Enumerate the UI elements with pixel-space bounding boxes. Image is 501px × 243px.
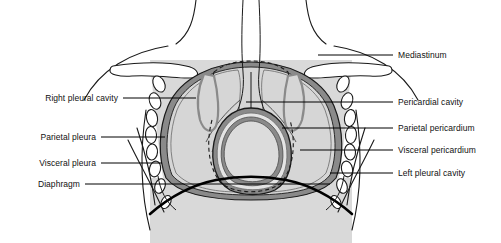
rib-right-4	[345, 126, 357, 144]
left-neck-outline	[176, 0, 196, 44]
anatomy-diagram-figure: Right pleural cavity Parietal pleura Vis…	[0, 0, 501, 243]
rib-left-4	[145, 126, 157, 144]
left-clavicle-bone	[110, 63, 198, 78]
left-pleural-reflection-fold	[198, 74, 218, 131]
label-left-pleural-cavity: Left pleural cavity	[398, 168, 465, 178]
rib-left-5	[146, 144, 158, 161]
label-parietal-pericardium: Parietal pericardium	[398, 123, 475, 133]
label-parietal-pleura: Parietal pleura	[8, 132, 96, 142]
left-flank-line-a	[128, 140, 164, 212]
right-neck-outline	[306, 0, 326, 44]
label-mediastinum: Mediastinum	[398, 50, 447, 60]
rib-right-5	[344, 144, 356, 161]
label-diaphragm: Diaphragm	[8, 179, 80, 189]
label-right-pleural-cavity: Right pleural cavity	[8, 93, 118, 103]
label-visceral-pleura: Visceral pleura	[8, 158, 96, 168]
label-visceral-pericardium: Visceral pericardium	[398, 145, 476, 155]
label-pericardial-cavity: Pericardial cavity	[398, 97, 463, 107]
right-flank-line-a	[338, 140, 374, 212]
right-clavicle-bone	[304, 63, 392, 78]
thorax-illustration	[0, 0, 501, 243]
